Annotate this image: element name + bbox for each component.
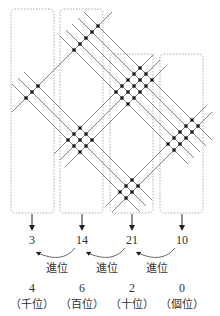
intersection-dot [132, 84, 135, 87]
intersection-dot [178, 142, 181, 145]
intersection-dot [190, 130, 193, 133]
intersection-dot [36, 84, 39, 87]
column-boxes [11, 9, 203, 213]
intersection-dot [144, 84, 147, 87]
intersection-dot [132, 96, 135, 99]
intersection-dot [84, 132, 87, 135]
intersection-dot [124, 196, 127, 199]
intersection-dot [66, 138, 69, 141]
sum-thousands: 3 [29, 233, 35, 247]
intersection-dot [132, 72, 135, 75]
intersection-dot [114, 90, 117, 93]
intersection-dot [78, 42, 81, 45]
result-hundreds: 6 [79, 281, 85, 295]
intersection-dot [130, 190, 133, 193]
intersection-dot [120, 84, 123, 87]
place-label-thousands: （千位） [10, 297, 54, 311]
intersection-dot [184, 124, 187, 127]
intersection-dot [172, 136, 175, 139]
intersection-dot [138, 66, 141, 69]
place-label-ones: （個位） [160, 297, 204, 311]
intersection-dot [118, 190, 121, 193]
place-label-hundreds: （百位） [60, 297, 104, 311]
sum-hundreds: 14 [76, 233, 88, 247]
intersection-dot [178, 130, 181, 133]
intersection-dot [96, 24, 99, 27]
result-ones: 0 [179, 281, 185, 295]
intersection-dot [166, 142, 169, 145]
digit-lines [12, 12, 212, 212]
intersection-dot [72, 144, 75, 147]
intersection-dot [196, 124, 199, 127]
intersection-dot [172, 148, 175, 151]
intersection-dot [190, 118, 193, 121]
intersection-dot [138, 78, 141, 81]
place-label-tens: （十位） [110, 297, 154, 311]
intersection-dot [78, 138, 81, 141]
intersection-dot [124, 184, 127, 187]
intersection-dot [136, 184, 139, 187]
carry-label: 進位 [46, 261, 68, 275]
intersection-dot [144, 72, 147, 75]
intersection-dots [24, 24, 199, 199]
intersection-dot [126, 78, 129, 81]
carry-label: 進位 [146, 261, 168, 275]
intersection-dot [150, 78, 153, 81]
intersection-dot [90, 138, 93, 141]
intersection-dot [30, 90, 33, 93]
result-tens: 2 [129, 281, 135, 295]
intersection-dot [126, 102, 129, 105]
box-tens [110, 54, 153, 213]
result-thousands: 4 [29, 281, 35, 295]
intersection-dot [72, 132, 75, 135]
intersection-dot [84, 144, 87, 147]
intersection-dot [184, 136, 187, 139]
intersection-dot [138, 90, 141, 93]
intersection-dot [78, 126, 81, 129]
box-thousands [11, 9, 54, 213]
intersection-dot [84, 36, 87, 39]
intersection-dot [130, 178, 133, 181]
intersection-dot [90, 30, 93, 33]
intersection-dot [78, 150, 81, 153]
sum-ones: 10 [176, 233, 188, 247]
intersection-dot [72, 48, 75, 51]
down-arrows [32, 214, 182, 228]
intersection-dot [120, 96, 123, 99]
carry-arrows [38, 248, 175, 257]
carry-label: 進位 [96, 261, 118, 275]
sum-tens: 21 [126, 233, 138, 247]
intersection-dot [126, 90, 129, 93]
intersection-dot [24, 96, 27, 99]
line-multiplication-diagram: 3 14 21 10 進位 進位 進位 4 6 2 0 （千位） （百位） （十… [0, 0, 220, 316]
